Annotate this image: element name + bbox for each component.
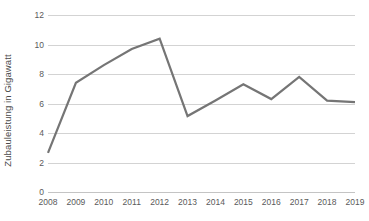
y-tick-label: 8 <box>18 69 44 79</box>
plot-area <box>48 15 355 192</box>
x-axis-tick-labels: 2008200920102011201220132014201520162017… <box>48 196 355 212</box>
y-tick-label: 6 <box>18 99 44 109</box>
gridline-0 <box>48 192 355 193</box>
series-line-zubauleistung <box>48 15 355 192</box>
y-axis-tick-labels: 024681012 <box>18 0 44 221</box>
y-tick-label: 4 <box>18 128 44 138</box>
y-tick-label: 10 <box>18 40 44 50</box>
x-tick-label: 2019 <box>335 196 369 208</box>
y-axis-title: Zubauleistung in Gigawatt <box>0 0 14 221</box>
y-tick-label: 12 <box>18 10 44 20</box>
y-tick-label: 2 <box>18 158 44 168</box>
